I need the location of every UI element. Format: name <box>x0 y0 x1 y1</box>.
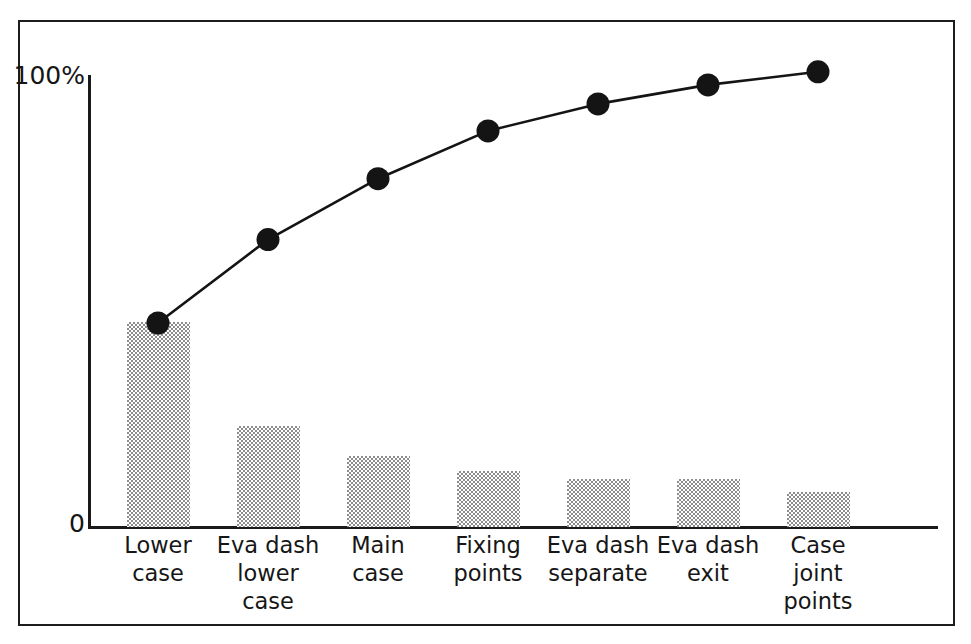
bar-series <box>0 0 971 527</box>
bar <box>457 471 520 527</box>
x-axis-category-label: Main case <box>323 531 433 587</box>
x-axis-category-label: Case joint points <box>763 531 873 615</box>
x-axis-category-label: Fixing points <box>433 531 543 587</box>
bar <box>677 479 740 527</box>
pareto-chart-page: 100% 0 Lower caseEva dash lower caseMain… <box>0 0 971 644</box>
x-axis-category-label: Lower case <box>103 531 213 587</box>
x-axis-category-label: Eva dash exit <box>653 531 763 587</box>
x-axis-category-labels: Lower caseEva dash lower caseMain caseFi… <box>0 531 971 631</box>
bar <box>567 479 630 527</box>
bar <box>347 456 410 527</box>
bar <box>787 492 850 527</box>
x-axis-category-label: Eva dash separate <box>543 531 653 587</box>
x-axis-category-label: Eva dash lower case <box>213 531 323 615</box>
bar <box>237 426 300 527</box>
plot-area: 100% 0 Lower caseEva dash lower caseMain… <box>0 0 971 644</box>
bar <box>127 322 190 527</box>
